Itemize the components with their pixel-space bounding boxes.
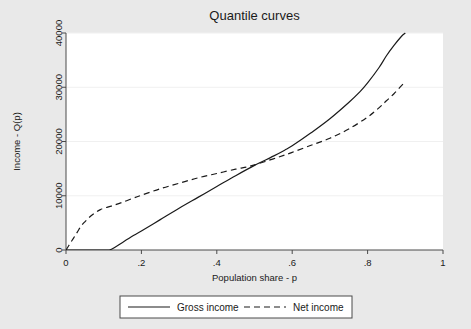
y-tick-label-3: 30000: [53, 74, 64, 100]
x-tick-label-1: .2: [137, 257, 145, 268]
chart-canvas: Quantile curves0100002000030000400000.2.…: [0, 0, 471, 329]
y-tick-label-0: 0: [53, 247, 64, 252]
legend-label-0: Gross income: [177, 302, 239, 313]
quantile-curves-chart: Quantile curves0100002000030000400000.2.…: [0, 0, 471, 329]
y-tick-label-4: 40000: [53, 20, 64, 46]
x-tick-label-4: .8: [364, 257, 372, 268]
y-axis-title: Income - Q(p): [11, 112, 22, 171]
y-tick-label-1: 10000: [53, 183, 64, 209]
x-axis-title: Population share - p: [212, 272, 297, 283]
y-tick-label-2: 20000: [53, 128, 64, 154]
x-tick-label-2: .4: [213, 257, 221, 268]
chart-title: Quantile curves: [209, 8, 300, 23]
x-tick-label-0: 0: [63, 257, 68, 268]
legend-label-1: Net income: [293, 302, 344, 313]
x-tick-label-3: .6: [288, 257, 296, 268]
x-tick-label-5: 1: [440, 257, 445, 268]
